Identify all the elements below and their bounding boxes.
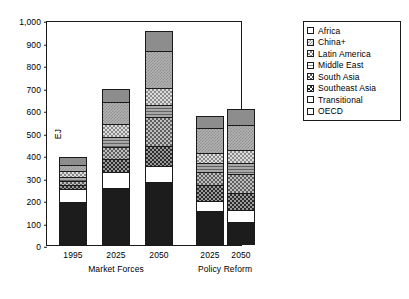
bar-segment-latinamerica (103, 124, 129, 136)
legend-swatch-icon (307, 27, 314, 34)
x-axis-tick-label: 2050 (231, 250, 250, 260)
y-axis-tick-label: 1,000 (19, 18, 47, 27)
stacked-bar (59, 157, 87, 245)
legend-item-southeastasia: Southeast Asia (307, 83, 397, 95)
legend-swatch-icon (307, 50, 314, 57)
bar-segment-oecd (146, 182, 172, 245)
bar-segment-transitional (228, 210, 254, 222)
stacked-bar (102, 89, 130, 245)
bar-segment-southasia (103, 147, 129, 159)
legend-item-label: Africa (318, 27, 340, 36)
bar-segment-latinamerica (146, 88, 172, 104)
legend-item-oecd: OECD (307, 106, 397, 118)
y-axis-tick-label: 600 (27, 108, 47, 117)
stacked-bar (145, 31, 173, 245)
bar-segment-southeastasia (146, 146, 172, 166)
bar-segment-transitional (60, 189, 86, 203)
bar-segment-southasia (146, 117, 172, 145)
bar-segment-middleeast (146, 105, 172, 118)
legend-item-label: China+ (318, 38, 346, 47)
bar-segment-chinaplus (146, 51, 172, 88)
legend-swatch-icon (307, 108, 314, 115)
y-axis-tick-label: 900 (27, 40, 47, 49)
plot-inner: 1,00090080070060050040030020010001995202… (47, 22, 241, 245)
bar-segment-chinaplus (103, 102, 129, 125)
bar-segment-africa (228, 109, 254, 125)
legend-item-latinamerica: Latin America (307, 48, 397, 60)
bar-segment-middleeast (228, 163, 254, 174)
bar-segment-southeastasia (228, 193, 254, 211)
y-axis-tick-label: 800 (27, 63, 47, 72)
bar-segment-transitional (146, 166, 172, 182)
bar-segment-oecd (60, 202, 86, 245)
y-axis-tick-label: 0 (36, 243, 47, 252)
bar-segment-oecd (228, 222, 254, 245)
x-axis-tick-label: 2025 (106, 250, 125, 260)
legend-item-label: Middle East (318, 61, 364, 70)
legend-item-label: Transitional (318, 96, 363, 105)
legend-swatch-icon (307, 96, 314, 103)
legend-swatch-icon (307, 62, 314, 69)
stacked-bar-chart: 1,00090080070060050040030020010001995202… (0, 0, 409, 299)
bar-segment-transitional (103, 172, 129, 188)
bar-segment-southeastasia (103, 159, 129, 172)
bar-segment-middleeast (103, 137, 129, 148)
x-axis-tick-label: 2025 (200, 250, 219, 260)
bar-segment-oecd (197, 211, 223, 245)
legend-item-chinaplus: China+ (307, 37, 397, 49)
y-axis-tick-label: 300 (27, 175, 47, 184)
x-axis-tick-label: 2050 (149, 250, 168, 260)
bar-segment-oecd (103, 188, 129, 245)
legend-item-middleeast: Middle East (307, 60, 397, 72)
legend-item-label: Latin America (318, 50, 371, 59)
legend-swatch-icon (307, 39, 314, 46)
legend-item-africa: Africa (307, 25, 397, 37)
legend-item-label: Southeast Asia (318, 84, 376, 93)
bar-segment-southasia (197, 172, 223, 186)
bar-segment-latinamerica (197, 153, 223, 163)
y-axis-tick-label: 500 (27, 130, 47, 139)
stacked-bar (196, 116, 224, 245)
legend-item-transitional: Transitional (307, 94, 397, 106)
y-axis-tick-label: 100 (27, 220, 47, 229)
bar-segment-africa (197, 116, 223, 128)
chart-legend: AfricaChina+Latin AmericaMiddle EastSout… (303, 21, 401, 121)
bar-segment-transitional (197, 201, 223, 211)
y-axis-tick-label: 400 (27, 153, 47, 162)
legend-item-southasia: South Asia (307, 71, 397, 83)
bar-segment-chinaplus (197, 128, 223, 153)
bar-segment-southeastasia (197, 185, 223, 201)
y-axis-label: EJ (53, 128, 63, 138)
legend-swatch-icon (307, 73, 314, 80)
y-axis-tick-label: 700 (27, 85, 47, 94)
bar-segment-middleeast (197, 163, 223, 172)
bar-segment-africa (103, 89, 129, 102)
y-axis-tick-label: 200 (27, 198, 47, 207)
bar-segment-africa (146, 31, 172, 51)
legend-swatch-icon (307, 85, 314, 92)
bar-segment-southasia (228, 174, 254, 192)
stacked-bar (227, 109, 255, 245)
legend-item-label: OECD (318, 107, 343, 116)
x-axis-tick-label: 1995 (63, 250, 82, 260)
legend-item-label: South Asia (318, 73, 360, 82)
plot-area: 1,00090080070060050040030020010001995202… (46, 21, 242, 246)
bar-segment-africa (60, 157, 86, 165)
x-axis-group-label: Policy Reform (198, 264, 252, 274)
bar-segment-chinaplus (228, 125, 254, 150)
x-axis-group-label: Market Forces (88, 264, 144, 274)
bar-segment-latinamerica (228, 150, 254, 163)
